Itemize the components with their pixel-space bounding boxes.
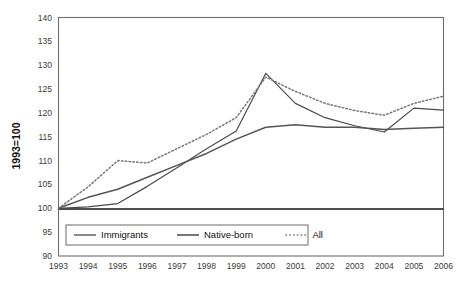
- x-tick-label: 1995: [108, 261, 127, 271]
- y-tick-label: 110: [38, 156, 52, 166]
- series-line-native-born: [59, 125, 444, 208]
- x-tick-label: 2001: [286, 261, 305, 271]
- x-tick-label: 1997: [168, 261, 187, 271]
- y-tick-label: 115: [38, 132, 52, 142]
- y-axis-title: 1993=100: [10, 122, 22, 169]
- legend-label-native-born: Native-born: [204, 229, 253, 240]
- series-line-all: [59, 77, 444, 208]
- y-tick-label: 140: [38, 13, 52, 23]
- legend-label-all: All: [312, 229, 323, 240]
- x-axis-tick-labels: 1993199419951996199719981999200020012002…: [49, 261, 453, 271]
- x-tick-label: 2005: [404, 261, 423, 271]
- y-tick-label: 125: [38, 84, 52, 94]
- y-tick-label: 120: [38, 108, 52, 118]
- plot-frame: [59, 18, 444, 257]
- y-tick-label: 90: [43, 251, 53, 261]
- y-tick-label: 130: [38, 60, 52, 70]
- series-line-immigrants: [59, 73, 444, 208]
- chart-container: 1993=100 9095100105110115120125130135140…: [0, 0, 464, 285]
- y-tick-label: 135: [38, 36, 52, 46]
- line-chart: 1993=100 9095100105110115120125130135140…: [0, 0, 464, 285]
- y-axis-tick-labels: 9095100105110115120125130135140: [38, 13, 52, 262]
- x-tick-label: 1999: [227, 261, 246, 271]
- y-tick-label: 95: [43, 227, 53, 237]
- series-lines: [59, 73, 444, 208]
- legend-label-immigrants: Immigrants: [101, 229, 148, 240]
- x-tick-label: 2006: [434, 261, 453, 271]
- x-tick-label: 1993: [49, 261, 68, 271]
- y-tick-label: 100: [38, 203, 52, 213]
- x-tick-label: 1998: [197, 261, 216, 271]
- x-tick-label: 2002: [316, 261, 335, 271]
- x-tick-label: 1996: [138, 261, 157, 271]
- x-tick-label: 1994: [79, 261, 98, 271]
- y-tick-label: 105: [38, 179, 52, 189]
- x-tick-label: 2000: [256, 261, 275, 271]
- chart-legend: ImmigrantsNative-bornAll: [66, 225, 323, 245]
- x-tick-label: 2003: [345, 261, 364, 271]
- x-tick-label: 2004: [375, 261, 394, 271]
- y-axis-title-group: 1993=100: [10, 122, 22, 169]
